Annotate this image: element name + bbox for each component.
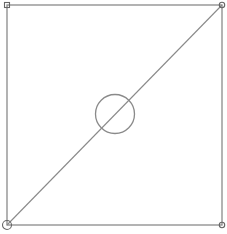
diagonal-line [7,5,222,225]
diagram-canvas [0,0,227,234]
